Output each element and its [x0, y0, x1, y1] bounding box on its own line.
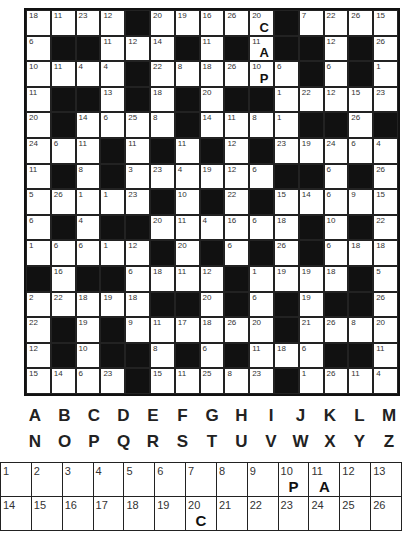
alphabet-letter[interactable]: Z: [376, 432, 402, 458]
grid-cell[interactable]: 18: [200, 61, 225, 87]
grid-cell[interactable]: 16: [224, 215, 249, 241]
grid-cell[interactable]: 16: [51, 266, 76, 292]
grid-cell[interactable]: 17: [175, 317, 200, 343]
key-cell[interactable]: 6: [154, 463, 185, 496]
grid-cell[interactable]: 1: [249, 266, 274, 292]
key-cell[interactable]: 21: [216, 497, 247, 530]
alphabet-letter[interactable]: L: [347, 406, 373, 432]
alphabet-letter[interactable]: V: [258, 432, 284, 458]
grid-cell[interactable]: 26: [324, 317, 349, 343]
grid-cell[interactable]: 8: [224, 368, 249, 394]
grid-cell[interactable]: 7: [299, 10, 324, 36]
grid-cell[interactable]: 11: [51, 10, 76, 36]
grid-cell[interactable]: 6: [26, 215, 51, 241]
grid-cell[interactable]: 6: [274, 61, 299, 87]
grid-cell[interactable]: 24: [26, 138, 51, 164]
key-cell[interactable]: 16: [62, 497, 93, 530]
grid-cell[interactable]: 26: [373, 36, 398, 62]
grid-cell[interactable]: 14: [76, 112, 101, 138]
alphabet-letter[interactable]: U: [229, 432, 255, 458]
grid-cell[interactable]: 14: [51, 368, 76, 394]
grid-cell[interactable]: 18: [150, 266, 175, 292]
key-cell[interactable]: 18: [123, 497, 154, 530]
grid-cell[interactable]: 6: [76, 368, 101, 394]
grid-cell[interactable]: 12: [224, 164, 249, 190]
alphabet-letter[interactable]: P: [81, 432, 107, 458]
key-cell[interactable]: 15: [31, 497, 62, 530]
grid-cell[interactable]: 23: [373, 87, 398, 113]
grid-cell[interactable]: 19: [299, 292, 324, 318]
grid-cell[interactable]: 4: [175, 164, 200, 190]
grid-cell[interactable]: 18: [324, 266, 349, 292]
grid-cell[interactable]: 18: [274, 343, 299, 369]
grid-cell[interactable]: 22: [150, 61, 175, 87]
grid-cell[interactable]: 1: [299, 368, 324, 394]
grid-cell[interactable]: 19: [100, 292, 125, 318]
grid-cell[interactable]: 8: [150, 112, 175, 138]
alphabet-letter[interactable]: G: [199, 406, 225, 432]
alphabet-letter[interactable]: A: [22, 406, 48, 432]
alphabet-letter[interactable]: W: [288, 432, 314, 458]
grid-cell[interactable]: 6: [100, 112, 125, 138]
alphabet-letter[interactable]: K: [317, 406, 343, 432]
grid-cell[interactable]: 8: [175, 61, 200, 87]
grid-cell[interactable]: 12: [200, 266, 225, 292]
grid-cell[interactable]: 12: [26, 343, 51, 369]
grid-cell[interactable]: 20: [150, 10, 175, 36]
grid-cell[interactable]: 11: [150, 317, 175, 343]
grid-cell[interactable]: 4: [373, 138, 398, 164]
grid-cell[interactable]: 14: [299, 189, 324, 215]
key-cell[interactable]: 11A: [308, 463, 339, 496]
grid-cell[interactable]: 1: [274, 112, 299, 138]
grid-cell[interactable]: 6: [324, 240, 349, 266]
grid-cell[interactable]: 23: [125, 189, 150, 215]
key-cell[interactable]: 20C: [185, 497, 216, 530]
grid-cell[interactable]: 19: [175, 10, 200, 36]
grid-cell[interactable]: 24: [324, 138, 349, 164]
alphabet-letter[interactable]: Y: [347, 432, 373, 458]
grid-cell[interactable]: 14: [200, 112, 225, 138]
grid-cell[interactable]: 11: [26, 87, 51, 113]
grid-cell[interactable]: 18: [348, 240, 373, 266]
grid-cell[interactable]: 23: [249, 368, 274, 394]
grid-cell[interactable]: 15: [150, 368, 175, 394]
grid-cell[interactable]: 11: [175, 368, 200, 394]
grid-cell[interactable]: 6: [26, 36, 51, 62]
key-cell[interactable]: 2: [31, 463, 62, 496]
grid-cell[interactable]: 1: [100, 189, 125, 215]
grid-cell[interactable]: 18: [26, 10, 51, 36]
grid-cell[interactable]: 10P: [249, 61, 274, 87]
grid-cell[interactable]: 18: [150, 87, 175, 113]
grid-cell[interactable]: 6: [249, 215, 274, 241]
grid-cell[interactable]: 1: [26, 240, 51, 266]
grid-cell[interactable]: 12: [125, 36, 150, 62]
grid-cell[interactable]: 6: [125, 266, 150, 292]
key-cell[interactable]: 14: [1, 497, 31, 530]
grid-cell[interactable]: 4: [373, 368, 398, 394]
grid-cell[interactable]: 14: [150, 36, 175, 62]
alphabet-letter[interactable]: H: [229, 406, 255, 432]
grid-cell[interactable]: 20: [150, 215, 175, 241]
grid-cell[interactable]: 10: [175, 189, 200, 215]
grid-cell[interactable]: 6: [224, 240, 249, 266]
grid-cell[interactable]: 1: [274, 87, 299, 113]
alphabet-letter[interactable]: F: [170, 406, 196, 432]
grid-cell[interactable]: 19: [299, 138, 324, 164]
key-cell[interactable]: 10P: [278, 463, 309, 496]
grid-cell[interactable]: 6: [51, 138, 76, 164]
key-cell[interactable]: 3: [62, 463, 93, 496]
grid-cell[interactable]: 1: [100, 240, 125, 266]
grid-cell[interactable]: 26: [224, 61, 249, 87]
key-cell[interactable]: 1: [1, 463, 31, 496]
alphabet-letter[interactable]: X: [317, 432, 343, 458]
alphabet-letter[interactable]: T: [199, 432, 225, 458]
alphabet-letter[interactable]: N: [22, 432, 48, 458]
grid-cell[interactable]: 11A: [249, 36, 274, 62]
key-cell[interactable]: 8: [216, 463, 247, 496]
grid-cell[interactable]: 26: [274, 240, 299, 266]
grid-cell[interactable]: 20: [373, 317, 398, 343]
key-cell[interactable]: 24: [308, 497, 339, 530]
grid-cell[interactable]: 23: [76, 10, 101, 36]
grid-cell[interactable]: 5: [26, 189, 51, 215]
grid-cell[interactable]: 6: [76, 240, 101, 266]
